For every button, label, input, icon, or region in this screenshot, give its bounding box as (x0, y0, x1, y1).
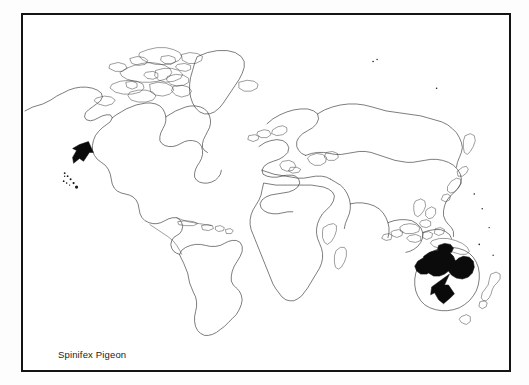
distribution-range-australia (415, 243, 475, 279)
southeast-asia-islands (382, 199, 444, 243)
japan-outline (442, 166, 469, 202)
africa-outline (250, 183, 336, 301)
arctic-archipelago (94, 48, 202, 106)
hawaiian-islands (64, 172, 78, 188)
world-map (23, 15, 509, 370)
australia-arrow (431, 274, 455, 304)
map-frame: Spinifex Pigeon (21, 13, 511, 372)
kamchatka-outline (463, 134, 475, 155)
new-zealand-outline (479, 272, 500, 309)
central-america-caribbean (150, 218, 233, 255)
south-america-outline (180, 240, 242, 335)
madagascar-outline (334, 247, 346, 269)
greenland-outline (190, 51, 245, 114)
pacific-arrow (73, 142, 94, 164)
iceland-outline (239, 80, 258, 91)
asia-outline (306, 104, 463, 252)
figure-container: Spinifex Pigeon (0, 0, 529, 385)
north-america-outline (25, 87, 221, 254)
map-caption: Spinifex Pigeon (58, 349, 126, 360)
mediterranean-outline (262, 151, 338, 179)
